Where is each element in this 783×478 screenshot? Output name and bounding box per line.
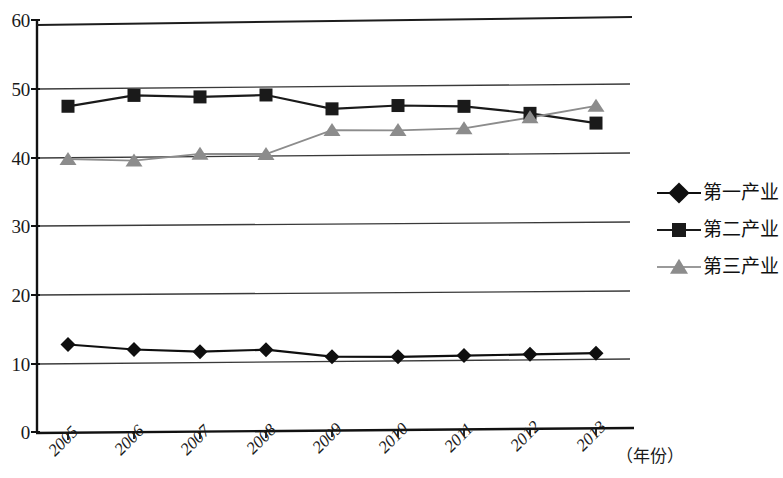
legend-item-series3[interactable]: 第三产业 <box>657 248 783 285</box>
y-tick-label-40: 40 <box>0 149 30 168</box>
gridline-30 <box>37 222 630 226</box>
y-tick-label-60: 60 <box>0 11 30 30</box>
data-point-2-2013 <box>590 117 603 130</box>
data-point-1-2007 <box>193 344 208 359</box>
data-point-1-2006 <box>127 342 142 357</box>
plot-top-border <box>37 17 632 25</box>
gridline-20 <box>37 291 630 295</box>
y-tick-label-10: 10 <box>0 355 30 374</box>
line-chart: 60 50 40 30 20 10 0 2005 2006 2007 2008 … <box>0 0 783 478</box>
square-marker-icon <box>672 223 686 237</box>
data-point-1-2005 <box>61 337 76 352</box>
chart-legend: 第一产业 第二产业 第三产业 <box>657 174 783 285</box>
legend-swatch-series3 <box>657 255 701 279</box>
legend-label-series2: 第二产业 <box>701 220 779 240</box>
y-tick-label-20: 20 <box>0 286 30 305</box>
data-point-2-2009 <box>326 102 339 115</box>
data-point-2-2007 <box>194 90 207 103</box>
data-point-2-2005 <box>62 100 75 113</box>
legend-swatch-series2 <box>657 218 701 242</box>
data-point-1-2010 <box>391 349 406 364</box>
x-axis-unit-label: （年份） <box>616 448 684 465</box>
data-point-1-2013 <box>589 346 604 361</box>
data-point-2-2008 <box>260 88 273 101</box>
y-tick-label-30: 30 <box>0 217 30 236</box>
diamond-marker-icon <box>668 182 689 203</box>
legend-swatch-series1 <box>657 181 701 205</box>
data-point-2-2011 <box>458 100 471 113</box>
series-markers <box>60 88 605 364</box>
y-tick-label-0: 0 <box>0 423 30 442</box>
triangle-marker-icon <box>670 258 688 273</box>
data-point-1-2008 <box>259 342 274 357</box>
legend-item-series1[interactable]: 第一产业 <box>657 174 783 211</box>
gridline-50 <box>37 84 630 89</box>
legend-item-series2[interactable]: 第二产业 <box>657 211 783 248</box>
data-point-2-2010 <box>392 99 405 112</box>
legend-label-series3: 第三产业 <box>701 257 779 277</box>
gridline-40 <box>37 153 630 158</box>
data-point-3-2013 <box>588 99 605 112</box>
y-tick-marks <box>31 20 40 432</box>
data-point-2-2006 <box>128 89 141 102</box>
y-tick-label-50: 50 <box>0 80 30 99</box>
legend-label-series1: 第一产业 <box>701 183 779 203</box>
